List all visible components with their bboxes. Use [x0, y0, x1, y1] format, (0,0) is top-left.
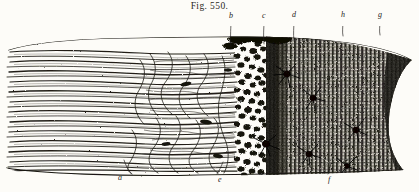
figure-caption: Fig. 550. — [0, 1, 419, 11]
label-b: b — [229, 12, 233, 20]
granular-cell-layer — [234, 38, 269, 178]
label-c: c — [262, 12, 266, 20]
engraving-illustration — [0, 26, 419, 178]
label-a: a — [118, 174, 122, 182]
figure-plate-550: Fig. 550. — [0, 0, 419, 192]
dark-striated-layer — [262, 32, 418, 178]
label-f: f — [328, 176, 330, 184]
label-h: h — [341, 11, 345, 19]
label-e: e — [218, 176, 222, 184]
label-g-top: g — [378, 11, 382, 19]
label-d: d — [292, 11, 296, 19]
